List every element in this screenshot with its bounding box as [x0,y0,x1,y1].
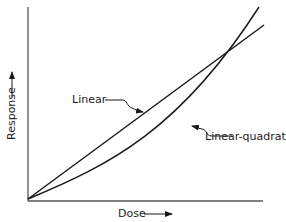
y-axis-label: Response [6,87,17,140]
x-axis-label: Dose [118,208,146,219]
linear-label: Linear [72,94,106,105]
linear-pointer-arrow [105,100,143,112]
dose-response-diagram [0,0,286,222]
linear-quadratic-curve [28,7,259,199]
linear-quadratic-label: Linear-quadratic [205,131,286,142]
